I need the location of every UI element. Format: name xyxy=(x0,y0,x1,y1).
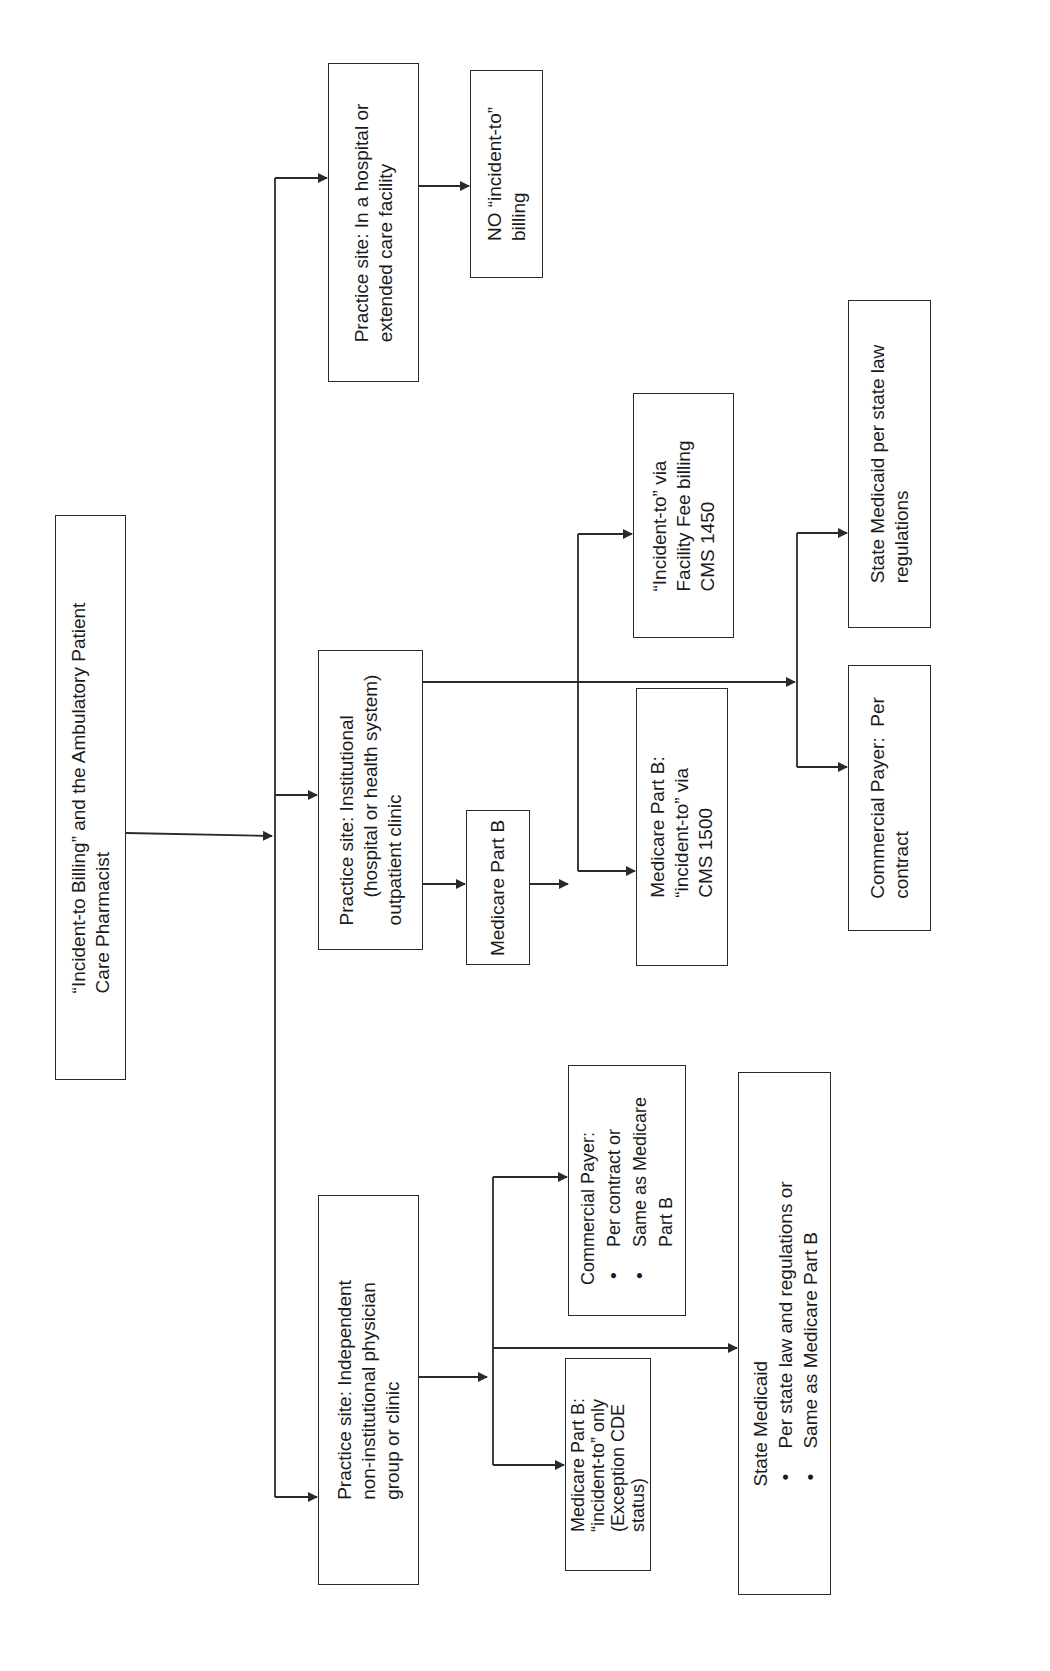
bullet-item: Per contract or xyxy=(601,1096,627,1284)
node-practice-independent: Practice site: Independent non-instituti… xyxy=(318,1195,419,1585)
arrow-root-to-trunk xyxy=(126,833,272,836)
node-no-incident-to-billing: NO “incident-to” billing xyxy=(470,70,543,278)
node-line: Facility Fee billing xyxy=(672,440,696,591)
node-independent-medicare-part-b: Medicare Part B: “incident-to” only (Exc… xyxy=(565,1358,651,1571)
node-institutional-state-medicaid: State Medicaid per state law regulations xyxy=(848,300,931,628)
node-line: “Incident-to” via xyxy=(648,440,672,591)
node-line: regulations xyxy=(890,345,914,584)
node-line: (hospital or health system) xyxy=(359,675,383,926)
node-line: “incident-to” via xyxy=(670,756,694,898)
root-line-1: “Incident-to Billing” and the Ambulatory… xyxy=(67,602,91,993)
root-line-2: Care Pharmacist xyxy=(91,602,115,993)
node-practice-institutional: Practice site: Institutional (hospital o… xyxy=(318,650,423,950)
node-line: Practice site: In a hospital or xyxy=(350,103,374,342)
node-heading: Commercial Payer: xyxy=(575,1096,601,1284)
node-line: “incident-to” only xyxy=(588,1397,608,1531)
node-line: CMS 1500 xyxy=(694,756,718,898)
node-line: extended care facility xyxy=(374,103,398,342)
node-practice-hospital: Practice site: In a hospital or extended… xyxy=(328,63,419,382)
node-line: (Exception CDE xyxy=(608,1397,628,1531)
bullet-list: Per contract or Same as Medicare Part B xyxy=(601,1096,679,1284)
bullet-text: Same as Medicare Part B xyxy=(797,1181,822,1448)
node-independent-state-medicaid: State Medicaid Per state law and regulat… xyxy=(738,1072,831,1595)
node-institutional-commercial-payer: Commercial Payer: Per contract xyxy=(848,665,931,931)
bullet-text: Part B xyxy=(653,1096,679,1246)
node-institutional-medicare-part-b: Medicare Part B xyxy=(466,810,530,965)
node-line: Commercial Payer: Per xyxy=(866,697,890,899)
bullet-text: Per contract or xyxy=(601,1096,627,1246)
node-medicare-cms-1500: Medicare Part B: “incident-to” via CMS 1… xyxy=(636,688,728,966)
bullet-item: Per state law and regulations or xyxy=(772,1181,797,1486)
bullet-item: Same as Medicare Part B xyxy=(797,1181,822,1486)
bullet-text: Same as Medicare xyxy=(627,1096,653,1246)
node-line: State Medicaid per state law xyxy=(866,345,890,584)
node-line: NO “incident-to” xyxy=(483,107,507,241)
node-line: status) xyxy=(628,1397,648,1531)
node-line: outpatient clinic xyxy=(383,675,407,926)
node-line: billing xyxy=(507,107,531,241)
node-line: Practice site: Independent xyxy=(333,1280,357,1500)
node-line: Medicare Part B xyxy=(486,819,510,955)
node-line: Practice site: Institutional xyxy=(335,675,359,926)
node-heading: State Medicaid xyxy=(747,1181,772,1486)
bullet-item: Same as Medicare Part B xyxy=(627,1096,679,1284)
root-node-incident-to-billing: “Incident-to Billing” and the Ambulatory… xyxy=(55,515,126,1080)
node-line: contract xyxy=(890,697,914,899)
node-line: CMS 1450 xyxy=(696,440,720,591)
node-line: non-institutional physician xyxy=(357,1280,381,1500)
node-independent-commercial-payer: Commercial Payer: Per contract or Same a… xyxy=(568,1065,686,1316)
node-line: group or clinic xyxy=(381,1280,405,1500)
node-facility-fee-cms-1450: “Incident-to” via Facility Fee billing C… xyxy=(633,393,734,638)
bullet-list: Per state law and regulations or Same as… xyxy=(772,1181,822,1486)
node-line: Medicare Part B: xyxy=(568,1397,588,1531)
node-line: Medicare Part B: xyxy=(646,756,670,898)
bullet-text: Per state law and regulations or xyxy=(772,1181,797,1448)
